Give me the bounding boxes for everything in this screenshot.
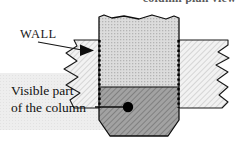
label-visible-part-line1: Visible part — [11, 82, 86, 99]
figure-canvas: column plan view WALL Visible part of th… — [0, 0, 236, 142]
top-caption-clipped: column plan view — [62, 0, 236, 4]
column-lower-section — [97, 87, 181, 139]
label-visible-part: Visible part of the column — [11, 82, 86, 116]
label-wall: WALL — [20, 27, 57, 42]
column-wall-diagram — [0, 0, 236, 142]
column-body — [97, 12, 181, 139]
marker-dot — [123, 102, 133, 112]
column-upper-section — [97, 12, 181, 89]
label-visible-part-line2: of the column — [11, 99, 86, 116]
